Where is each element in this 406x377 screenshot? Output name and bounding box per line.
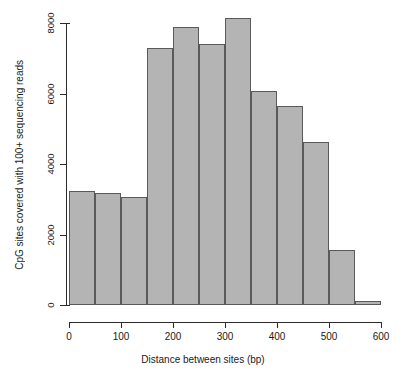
x-axis-tick	[121, 322, 122, 328]
y-axis-tick-label: 6000	[30, 83, 56, 104]
y-axis-cap-bottom	[66, 305, 70, 306]
x-axis-tick-label: 100	[113, 331, 130, 342]
x-axis-tick-label: 0	[66, 331, 72, 342]
y-axis-tick-label: 2000	[30, 224, 56, 245]
x-axis-tick	[277, 322, 278, 328]
y-axis-tick	[60, 164, 66, 165]
x-axis-title: Distance between sites (bp)	[0, 354, 406, 365]
x-axis-tick-label: 200	[165, 331, 182, 342]
y-axis-tick	[60, 235, 66, 236]
x-axis-tick-label: 300	[217, 331, 234, 342]
histogram-bar	[69, 191, 95, 305]
histogram-bar	[277, 106, 303, 305]
histogram-bar	[251, 91, 277, 305]
histogram-bar	[303, 142, 329, 305]
histogram-bar	[95, 193, 121, 305]
y-axis-tick-label: 8000	[30, 12, 56, 33]
x-axis-tick	[225, 322, 226, 328]
histogram-plot: CpG sites covered with 100+ sequencing r…	[0, 0, 406, 377]
histogram-bars	[69, 23, 381, 305]
y-axis-tick	[60, 305, 66, 306]
y-axis-tick-label: 4000	[30, 153, 56, 174]
histogram-bar	[355, 301, 381, 305]
y-axis-tick-label: 0	[30, 302, 56, 307]
y-axis-title: CpG sites covered with 100+ sequencing r…	[12, 0, 26, 330]
x-axis-tick-label: 400	[269, 331, 286, 342]
x-axis-tick-label: 500	[321, 331, 338, 342]
y-axis-tick	[60, 94, 66, 95]
x-axis-tick	[381, 322, 382, 328]
x-axis-tick-label: 600	[373, 331, 390, 342]
histogram-bar	[199, 44, 225, 305]
histogram-bar	[173, 27, 199, 305]
histogram-bar	[225, 18, 251, 305]
histogram-bar	[329, 250, 355, 305]
x-axis-tick	[173, 322, 174, 328]
y-axis-tick	[60, 23, 66, 24]
y-axis-title-text: CpG sites covered with 100+ sequencing r…	[14, 60, 25, 270]
histogram-bar	[147, 48, 173, 305]
histogram-bar	[121, 197, 147, 305]
plot-area	[69, 23, 381, 305]
y-axis-line	[66, 23, 67, 306]
x-axis-tick	[329, 322, 330, 328]
x-axis-tick	[69, 322, 70, 328]
